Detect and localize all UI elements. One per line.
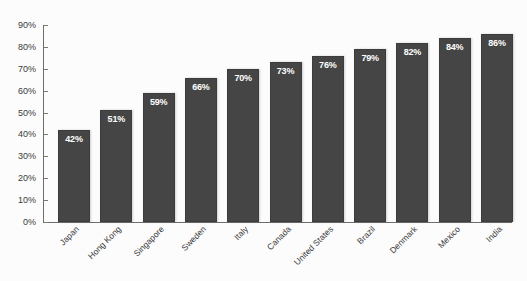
y-axis-tick [44, 178, 48, 179]
bar: 51% [100, 110, 132, 222]
bar: 42% [58, 130, 90, 222]
y-axis-tick [44, 222, 48, 223]
bar: 79% [354, 49, 386, 222]
x-axis-category-labels: JapanHong KongSingaporeSwedenItalyCanada… [43, 224, 527, 281]
bar-value-label: 86% [482, 38, 512, 48]
y-axis-tick-label: 30% [0, 152, 36, 161]
y-axis-line [43, 25, 44, 222]
y-axis-tick-label: 40% [0, 130, 36, 139]
y-axis-tick-label: 50% [0, 109, 36, 118]
bar: 59% [143, 93, 175, 222]
y-axis-tick [44, 134, 48, 135]
y-axis-tick-label: 10% [0, 196, 36, 205]
y-axis-tick-label: 0% [0, 218, 36, 227]
y-axis-tick [44, 69, 48, 70]
bar: 66% [185, 78, 217, 222]
x-axis-line [43, 222, 512, 223]
bar-value-label: 59% [144, 97, 174, 107]
bar-value-label: 51% [101, 114, 131, 124]
y-axis-tick-label: 60% [0, 87, 36, 96]
bar: 73% [270, 62, 302, 222]
bar-value-label: 70% [228, 73, 258, 83]
y-axis-tick [44, 200, 48, 201]
y-axis-tick [44, 113, 48, 114]
bar: 70% [227, 69, 259, 222]
bar: 76% [312, 56, 344, 222]
bar: 82% [396, 43, 428, 222]
bar-value-label: 82% [397, 47, 427, 57]
bar-value-label: 42% [59, 134, 89, 144]
bar-value-label: 79% [355, 53, 385, 63]
bar: 86% [481, 34, 513, 222]
bar-value-label: 76% [313, 60, 343, 70]
y-axis-tick-label: 20% [0, 174, 36, 183]
bar-chart: 0%10%20%30%40%50%60%70%80%90% 42%51%59%6… [0, 0, 527, 281]
y-axis-tick [44, 25, 48, 26]
y-axis-tick [44, 156, 48, 157]
y-axis-tick-label: 90% [0, 21, 36, 30]
bar-value-label: 84% [440, 42, 470, 52]
bar: 84% [439, 38, 471, 222]
bar-value-label: 73% [271, 66, 301, 76]
plot-area: 42%51%59%66%70%73%76%79%82%84%86% [43, 25, 512, 222]
y-axis-tick [44, 91, 48, 92]
y-axis-tick-label: 80% [0, 43, 36, 52]
y-axis-tick-labels: 0%10%20%30%40%50%60%70%80%90% [0, 0, 43, 281]
y-axis-tick-label: 70% [0, 65, 36, 74]
bar-value-label: 66% [186, 82, 216, 92]
y-axis-tick [44, 47, 48, 48]
